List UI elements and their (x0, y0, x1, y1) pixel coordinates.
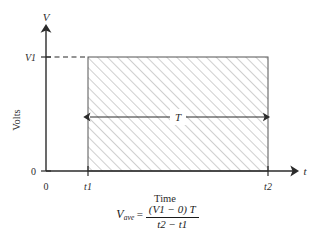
y-axis-symbol: V (43, 11, 51, 23)
y-tick-label-v1: V1 (25, 52, 36, 63)
x-axis-symbol: t (303, 165, 307, 177)
formula-equals-sign: = (137, 208, 143, 220)
x-tick-label-t2: t2 (264, 181, 272, 192)
y-tick-label-zero: 0 (31, 166, 36, 177)
formula-lhs-subscript: ave (124, 213, 135, 222)
x-tick-label-t1: t1 (84, 181, 92, 192)
pulse-plot: T V t V1 0 0 t1 t2 Volts Time (0, 0, 315, 233)
y-axis-caption: Volts (11, 109, 22, 130)
figure-container: T V t V1 0 0 t1 t2 Volts Time Vave= (V1 … (0, 0, 315, 233)
formula-numerator: (V1 − 0) T (146, 203, 199, 216)
average-voltage-formula: Vave= (V1 − 0) T t2 − t1 (0, 202, 315, 233)
x-tick-label-zero: 0 (44, 181, 49, 192)
period-label: T (175, 111, 182, 123)
formula-lhs-variable: V (116, 207, 123, 221)
formula-denominator: t2 − t1 (146, 218, 199, 231)
formula-fraction: (V1 − 0) T t2 − t1 (146, 203, 199, 230)
